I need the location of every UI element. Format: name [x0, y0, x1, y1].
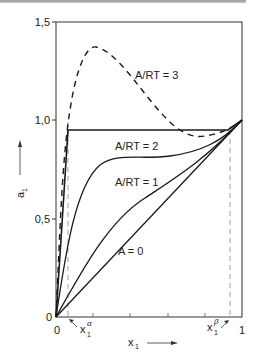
label-rt2: A/RT = 2: [115, 140, 158, 152]
label-rt3: A/RT = 3: [135, 69, 178, 81]
svg-text:α: α: [87, 319, 92, 328]
svg-text:β: β: [213, 317, 219, 326]
y-axis-label: a 1: [14, 140, 28, 198]
arrow-up-icon: [18, 140, 22, 147]
activity-chart: 1,5 1,0 0,5 0 0 1 A/RT = 3 A/RT = 2 A/RT…: [0, 0, 258, 364]
svg-text:x: x: [207, 321, 213, 333]
svg-text:1: 1: [214, 329, 218, 336]
arrow-icon: [69, 319, 74, 323]
svg-text:1: 1: [135, 343, 139, 350]
arrow-icon: [224, 320, 229, 324]
x-tick-0: 0: [54, 324, 60, 336]
x-alpha-annotation: x 1 α: [69, 319, 92, 338]
x-axis-label: x 1: [128, 336, 178, 350]
label-a0: A = 0: [118, 245, 143, 257]
y-tick-0: 0: [46, 311, 52, 323]
y-tick-1.5: 1,5: [35, 16, 50, 28]
y-tick-1.0: 1,0: [35, 114, 50, 126]
x-tick-1: 1: [239, 324, 245, 336]
x-ticks: [93, 313, 205, 317]
svg-text:x: x: [128, 336, 134, 348]
x-beta-annotation: x 1 β: [207, 317, 229, 336]
arrow-right-icon: [171, 341, 178, 345]
svg-text:1: 1: [87, 331, 91, 338]
label-rt1: A/RT = 1: [115, 176, 158, 188]
svg-text:1: 1: [21, 188, 28, 192]
y-tick-0.5: 0,5: [35, 213, 50, 225]
plot-frame: [56, 22, 242, 317]
svg-text:x: x: [80, 323, 86, 335]
y-ticks: [52, 22, 56, 219]
